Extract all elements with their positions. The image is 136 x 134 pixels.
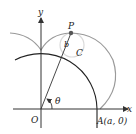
- origin-label: O: [31, 115, 39, 125]
- angle-arc: [47, 99, 52, 109]
- epicycloid-curve: [10, 33, 116, 109]
- radius-b-label: b: [64, 40, 69, 49]
- x-axis-label: x: [127, 104, 132, 114]
- epicycloid-diagram: y x O P b C θ A(a, 0): [0, 0, 136, 134]
- fixed-circle: [15, 54, 97, 128]
- y-axis-label: y: [37, 7, 44, 17]
- point-a-label: A(a, 0): [96, 116, 128, 126]
- point-p: [69, 31, 73, 35]
- angle-theta-label: θ: [55, 96, 61, 106]
- point-p-label: P: [67, 21, 75, 31]
- center-c-label: C: [76, 48, 83, 58]
